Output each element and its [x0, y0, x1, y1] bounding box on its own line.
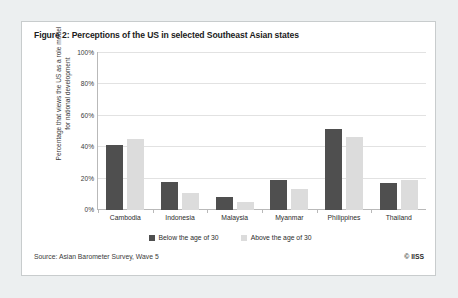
bar-group: [371, 52, 426, 210]
legend-item-below-30[interactable]: Below the age of 30: [149, 234, 219, 241]
bar[interactable]: [291, 189, 308, 210]
source-note: Source: Asian Barometer Survey, Wave 5: [34, 253, 159, 260]
x-axis-tick: [207, 210, 208, 213]
bar[interactable]: [127, 139, 144, 210]
legend-label-above-30: Above the age of 30: [251, 234, 312, 241]
figure-footer: Source: Asian Barometer Survey, Wave 5 ©…: [34, 253, 424, 260]
bar-group: [262, 52, 317, 210]
y-tick-label-60: 60%: [64, 112, 94, 119]
chart-legend: Below the age of 30 Above the age of 30: [34, 234, 426, 241]
bar[interactable]: [401, 180, 418, 210]
x-tick-label: Malaysia: [207, 214, 262, 221]
bar[interactable]: [325, 129, 342, 210]
x-tick-label: Cambodia: [98, 214, 153, 221]
y-tick-label-0: 0%: [64, 206, 94, 213]
bar[interactable]: [161, 182, 178, 210]
copyright-note: © IISS: [404, 253, 424, 260]
bar-group: [98, 52, 153, 210]
bar[interactable]: [270, 180, 287, 210]
figure-card: Figure 2: Perceptions of the US in selec…: [21, 21, 436, 276]
legend-label-below-30: Below the age of 30: [159, 234, 219, 241]
x-axis-category-labels: CambodiaIndonesiaMalaysiaMyanmarPhilippi…: [98, 214, 426, 221]
x-axis-tick: [98, 210, 99, 213]
legend-item-above-30[interactable]: Above the age of 30: [241, 234, 312, 241]
x-axis-tick: [153, 210, 154, 213]
x-axis-tick: [371, 210, 372, 213]
y-tick-label-80: 80%: [64, 80, 94, 87]
figure-page: Figure 2: Perceptions of the US in selec…: [0, 0, 458, 298]
bar[interactable]: [106, 145, 123, 210]
bar[interactable]: [346, 137, 363, 210]
x-axis-tick: [317, 210, 318, 213]
page-title: Figure 2: Perceptions of the US in selec…: [34, 30, 299, 40]
y-tick-label-100: 100%: [64, 49, 94, 56]
x-tick-label: Thailand: [371, 214, 426, 221]
bar-group: [207, 52, 262, 210]
y-tick-label-40: 40%: [64, 143, 94, 150]
x-axis-tick: [262, 210, 263, 213]
y-tick-label-20: 20%: [64, 175, 94, 182]
x-tick-label: Philippines: [317, 214, 372, 221]
bar[interactable]: [380, 183, 397, 210]
x-tick-label: Indonesia: [153, 214, 208, 221]
bar-series-container: [98, 52, 426, 210]
bar-group: [317, 52, 372, 210]
legend-swatch-above-30: [241, 235, 247, 241]
bar[interactable]: [237, 202, 254, 210]
chart-plot-area: Percentage that views the US as a role m…: [34, 49, 426, 231]
bar[interactable]: [182, 193, 199, 210]
bar-group: [153, 52, 208, 210]
legend-swatch-below-30: [149, 235, 155, 241]
x-tick-label: Myanmar: [262, 214, 317, 221]
bar[interactable]: [216, 197, 233, 210]
